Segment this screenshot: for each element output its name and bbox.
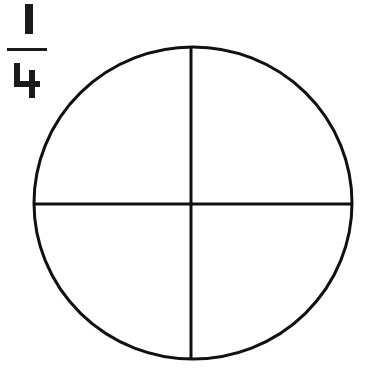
fraction-diagram: 1 4: [0, 0, 383, 384]
denominator-four: [14, 63, 40, 98]
fraction-bar: [7, 48, 47, 51]
numerator-one: [25, 4, 33, 34]
fraction-label: 1 4: [0, 0, 47, 98]
